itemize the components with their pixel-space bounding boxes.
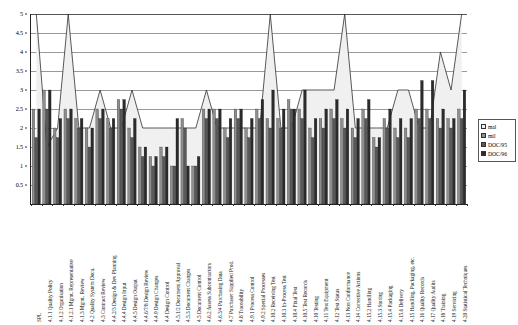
x-axis-label: 4.15.2 Handling [367,288,373,322]
bar [128,128,131,204]
bar [325,109,328,204]
y-tick-label: 5 [20,11,23,17]
legend-item: DOC/95 [481,140,513,149]
x-axis-label: 4.5.1/2 Document Approval [176,263,182,322]
bar [56,138,59,205]
bar [407,138,410,205]
legend-label: DOC/96 [488,151,507,157]
y-tick-mark [25,109,27,110]
bar [85,128,88,204]
x-axis-label: 4.11 Test Equipment [324,279,330,322]
bar [439,128,442,204]
x-axis-label: SPL [37,313,43,322]
bar [258,119,261,205]
bar [240,109,243,204]
bar [298,109,301,204]
bar [304,90,307,204]
bar [346,109,349,204]
bar [279,128,282,204]
bar [99,119,102,205]
bar [314,119,317,205]
bar [149,157,152,205]
bar [431,81,434,205]
y-tick-mark [25,90,27,91]
x-axis-label: 4.1.1 Quality Policy [48,280,54,322]
bar [463,90,466,204]
x-axis-label: 4.10.2 Receiving Test [271,276,277,322]
bar [386,128,389,204]
bar [410,119,413,205]
bar [383,119,386,205]
y-tick-mark [25,52,27,53]
bar [187,166,190,204]
y-tick-label: 2 [20,125,23,131]
bar [399,119,402,205]
bar [365,119,368,205]
bar [133,119,136,205]
x-axis-label: 4.15.4 Packaging [388,286,394,322]
bar [229,119,232,205]
bar [194,166,197,204]
bar [452,119,455,205]
y-tick-mark [25,185,27,186]
bar [155,157,158,205]
bar [428,119,431,205]
bar [378,138,381,205]
y-tick-label: 3 [20,87,23,93]
bar [436,119,439,205]
bar [131,138,134,205]
bar [340,119,343,205]
bar [261,100,264,205]
y-tick-mark [25,33,27,34]
x-axis-label: 4.18 Training [441,294,447,322]
bar [457,109,460,204]
x-axis-label: 4.1.2.1 Mgmt. Representative [69,259,75,322]
series-layer [31,14,467,204]
bar [421,81,424,205]
plot-area [30,14,467,205]
legend-swatch-icon [481,124,486,129]
bar [138,147,141,204]
chart-screenshot: 0.511.522.533.544.55 SPL4.1.1 Quality Po… [0,0,518,325]
bar [357,119,360,205]
bar [107,119,110,205]
bar [322,128,325,204]
bar [287,100,290,205]
y-tick-mark [25,147,27,148]
bar [96,109,99,204]
x-axis-label: 4.16 Quality Records [420,277,426,322]
x-axis-label: 4.15.3 Storing [378,292,384,322]
legend-swatch-icon [481,142,486,147]
bar [237,119,240,205]
x-axis-label: 4.4.4 Design Input [122,283,128,322]
bar [184,128,187,204]
bar [293,109,296,204]
bar [354,138,357,205]
x-axis-label: 4.10 Testing [314,296,320,322]
x-axis-label: 4.8 Traceability [239,289,245,322]
bar [213,109,216,204]
bar [144,147,147,204]
y-tick-label: 1.5 [16,144,23,150]
y-tick-label: 0.5 [16,182,23,188]
bar [223,128,226,204]
bar [372,138,375,205]
bar [255,109,258,204]
bar [102,109,105,204]
bar [301,119,304,205]
bar [290,109,293,204]
x-axis-label: 4.4.5 Design Output [133,279,139,322]
x-axis-label: 4.4.9 Design Changes [154,276,160,322]
y-tick-mark [25,71,27,72]
bar [112,119,115,205]
bar [43,90,46,204]
bar [415,109,418,204]
x-axis-category-labels: SPL4.1.1 Quality Policy4.1.2 Organisatio… [30,206,466,325]
bar [170,166,173,204]
bar [309,128,312,204]
bar [330,109,333,204]
bar [91,128,94,204]
bar [46,109,49,204]
bar [59,119,62,205]
chart-legend: malmilDOC/95DOC/96 [478,119,516,162]
